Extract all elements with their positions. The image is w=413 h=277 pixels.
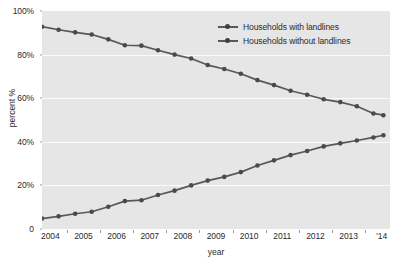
data-point xyxy=(156,193,161,198)
x-tick-mark xyxy=(133,230,134,233)
chart-root: 020%40%60%80%100% percent % 200420052006… xyxy=(0,0,413,277)
data-point xyxy=(288,153,293,158)
data-point xyxy=(106,37,111,42)
data-point xyxy=(73,211,78,216)
data-point xyxy=(73,30,78,35)
x-tick-mark xyxy=(266,230,267,233)
data-point xyxy=(355,138,360,143)
legend-item-with-landlines[interactable]: Households with landlines xyxy=(218,21,350,32)
data-point xyxy=(222,175,227,180)
data-point xyxy=(255,78,260,83)
data-point xyxy=(381,133,386,138)
y-axis-title: percent % xyxy=(7,78,17,138)
y-tick-mark xyxy=(40,98,42,99)
data-point xyxy=(381,113,386,118)
x-tick-label: 2004 xyxy=(41,231,60,241)
data-point xyxy=(255,163,260,168)
data-point xyxy=(139,198,144,203)
x-tick-label: '14 xyxy=(376,231,387,241)
y-tick-mark xyxy=(40,229,42,230)
x-tick-label: 2010 xyxy=(240,231,259,241)
data-point xyxy=(89,209,94,214)
x-tick-label: 2011 xyxy=(273,231,291,241)
data-point xyxy=(272,158,277,163)
data-point xyxy=(272,83,277,88)
data-point xyxy=(172,188,177,193)
x-tick-label: 2005 xyxy=(74,231,93,241)
y-tick-label: 0 xyxy=(29,224,34,234)
data-point xyxy=(305,149,310,154)
y-tick-label: 20% xyxy=(17,180,34,190)
x-tick-mark xyxy=(332,230,333,233)
y-tick-label: 40% xyxy=(17,137,34,147)
data-point xyxy=(321,97,326,102)
legend-item-without-landlines[interactable]: Households without landlines xyxy=(218,35,350,46)
legend-marker-icon xyxy=(218,22,238,31)
data-point xyxy=(205,178,210,183)
chart-legend: Households with landlines Households wit… xyxy=(218,21,350,46)
data-point xyxy=(42,24,44,29)
x-tick-label: 2007 xyxy=(140,231,159,241)
data-point xyxy=(189,183,194,188)
x-tick-mark xyxy=(166,230,167,233)
series-line-1 xyxy=(42,135,383,218)
data-point xyxy=(89,32,94,37)
data-point xyxy=(239,170,244,175)
y-tick-mark xyxy=(40,11,42,12)
data-point xyxy=(156,48,161,53)
data-point xyxy=(371,135,376,140)
x-tick-mark xyxy=(365,230,366,233)
x-tick-mark xyxy=(199,230,200,233)
data-point xyxy=(239,71,244,76)
data-point xyxy=(305,92,310,97)
x-axis-title: year xyxy=(42,247,390,257)
data-point xyxy=(338,141,343,146)
data-point xyxy=(123,199,128,204)
x-tick-mark xyxy=(100,230,101,233)
y-tick-label: 80% xyxy=(17,50,34,60)
x-tick-mark xyxy=(299,230,300,233)
legend-label: Households without landlines xyxy=(243,36,350,46)
x-axis-ticks: 2004200520062007200820092010201120122013… xyxy=(42,231,390,245)
y-tick-label: 100% xyxy=(13,6,34,16)
data-point xyxy=(56,27,61,32)
y-tick-mark xyxy=(40,185,42,186)
data-point xyxy=(371,111,376,116)
data-point xyxy=(321,144,326,149)
x-tick-mark xyxy=(67,230,68,233)
data-point xyxy=(222,67,227,72)
legend-marker-icon xyxy=(218,36,238,45)
y-tick-mark xyxy=(40,54,42,55)
x-tick-label: 2006 xyxy=(107,231,126,241)
data-point xyxy=(205,63,210,68)
data-point xyxy=(189,56,194,61)
data-point xyxy=(139,43,144,48)
data-point xyxy=(42,216,44,221)
data-point xyxy=(338,100,343,105)
x-tick-label: 2008 xyxy=(174,231,193,241)
y-axis-ticks: 020%40%60%80%100% xyxy=(0,11,38,229)
x-tick-label: 2013 xyxy=(339,231,358,241)
x-tick-label: 2009 xyxy=(207,231,226,241)
y-tick-mark xyxy=(40,141,42,142)
y-tick-label: 60% xyxy=(17,93,34,103)
legend-label: Households with landlines xyxy=(243,22,339,32)
data-point xyxy=(288,88,293,93)
data-point xyxy=(172,52,177,57)
x-tick-mark xyxy=(233,230,234,233)
data-point xyxy=(355,104,360,109)
x-tick-label: 2012 xyxy=(306,231,325,241)
data-point xyxy=(123,43,128,48)
data-point xyxy=(106,204,111,209)
data-point xyxy=(56,214,61,219)
